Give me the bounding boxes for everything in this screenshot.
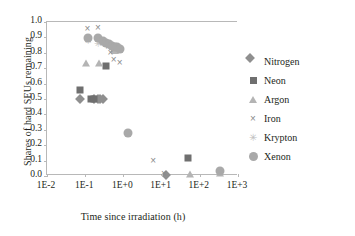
y-tick-mark <box>44 22 47 23</box>
data-point <box>95 59 103 66</box>
x-tick-label: 1E-2 <box>26 180 66 190</box>
legend-item-label: Krypton <box>264 132 297 143</box>
x-tick-label: 1E+3 <box>217 180 257 190</box>
data-points-layer: ×××××××××✳✳✳✳✳✳ <box>47 22 237 174</box>
x-tick-mark <box>238 174 239 177</box>
data-point <box>185 155 192 162</box>
legend-item-argon[interactable]: Argon <box>246 90 350 109</box>
y-tick-mark <box>44 145 47 146</box>
data-point <box>82 59 90 66</box>
data-point <box>90 96 97 103</box>
x-tick-mark <box>47 174 48 177</box>
x-tick-label: 1E+2 <box>179 180 219 190</box>
legend-item-iron[interactable]: ×Iron <box>246 109 350 128</box>
triangle-icon <box>246 93 260 107</box>
legend-item-label: Nitrogen <box>264 56 300 67</box>
y-tick-mark <box>44 37 47 38</box>
data-point: × <box>95 23 101 33</box>
scatter-chart: Shares of hard SEUs remaining Time since… <box>0 0 355 236</box>
legend-item-xenon[interactable]: Xenon <box>246 147 350 166</box>
x-tick-label: 1E+1 <box>141 180 181 190</box>
data-point <box>103 62 110 69</box>
legend-item-nitrogen[interactable]: Nitrogen <box>246 52 350 71</box>
x-tick-label: 1E-1 <box>64 180 104 190</box>
y-tick-mark <box>44 161 47 162</box>
x-tick-mark <box>162 174 163 177</box>
legend-item-label: Argon <box>264 94 289 105</box>
y-tick-mark <box>44 99 47 100</box>
legend-item-neon[interactable]: Neon <box>246 71 350 90</box>
y-tick-mark <box>44 114 47 115</box>
data-point <box>123 128 132 137</box>
y-tick-mark <box>44 130 47 131</box>
y-tick-mark <box>44 84 47 85</box>
data-point: × <box>85 24 91 34</box>
legend-item-krypton[interactable]: ✳Krypton <box>246 128 350 147</box>
x-tick-mark <box>85 174 86 177</box>
legend-item-label: Iron <box>264 113 281 124</box>
y-tick-mark <box>44 68 47 69</box>
x-tick-label: 1E+0 <box>102 180 142 190</box>
x-tick-mark <box>200 174 201 177</box>
plot-area: ×××××××××✳✳✳✳✳✳ <box>46 21 237 175</box>
data-point <box>215 166 224 175</box>
data-point: × <box>150 156 156 166</box>
data-point <box>83 34 92 43</box>
legend-item-label: Xenon <box>264 151 291 162</box>
data-point: × <box>117 58 123 68</box>
cross-icon: × <box>246 112 260 126</box>
data-point <box>116 44 125 53</box>
square-icon <box>246 74 260 88</box>
legend-item-label: Neon <box>264 75 286 86</box>
data-point <box>76 86 83 93</box>
y-tick-mark <box>44 53 47 54</box>
chart-legend: NitrogenNeonArgon×Iron✳KryptonXenon <box>246 52 350 166</box>
data-point <box>186 170 194 177</box>
x-tick-mark <box>123 174 124 177</box>
diamond-icon <box>246 55 260 69</box>
star-icon: ✳ <box>246 131 260 145</box>
circle-icon <box>246 150 260 164</box>
